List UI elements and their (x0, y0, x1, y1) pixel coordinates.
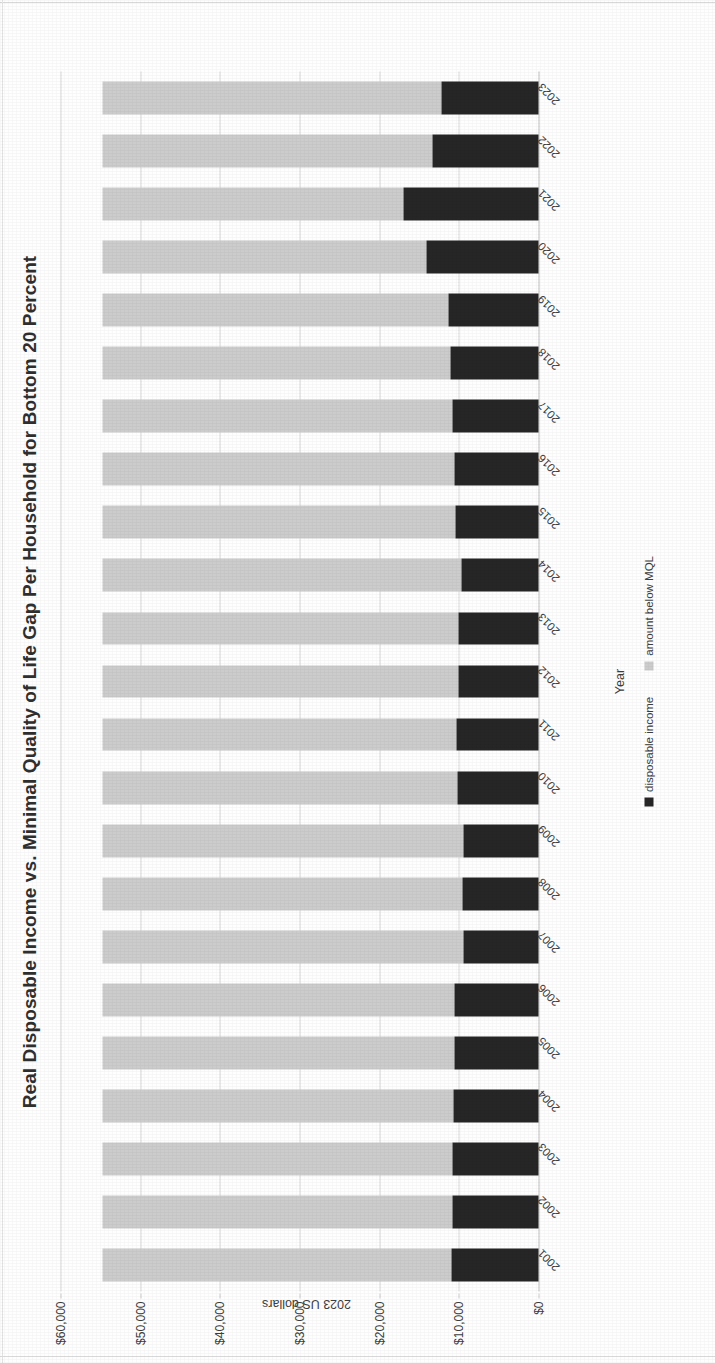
bar-segment[interactable] (452, 1142, 538, 1175)
bar-group[interactable] (102, 612, 538, 645)
bar-group[interactable] (102, 1248, 538, 1281)
bar-segment[interactable] (102, 1142, 452, 1175)
bar-segment[interactable] (403, 187, 538, 220)
bar-series-container (60, 71, 538, 1291)
bar-segment[interactable] (102, 558, 461, 591)
bar-segment[interactable] (102, 187, 402, 220)
scanned-page-background: Real Disposable Income vs. Minimal Quali… (0, 0, 715, 1363)
bar-segment[interactable] (102, 452, 453, 485)
bar-segment[interactable] (102, 1089, 453, 1122)
bar-group[interactable] (102, 718, 538, 751)
bar-segment[interactable] (463, 930, 538, 963)
bar-segment[interactable] (458, 665, 538, 698)
bar-segment[interactable] (102, 824, 463, 857)
bar-segment[interactable] (450, 346, 538, 379)
bar-segment[interactable] (453, 1089, 538, 1122)
bar-group[interactable] (102, 346, 538, 379)
value-axis-tick (60, 1293, 61, 1298)
bar-segment[interactable] (441, 81, 538, 114)
bar-group[interactable] (102, 452, 538, 485)
bar-segment[interactable] (454, 452, 538, 485)
bar-segment[interactable] (102, 1195, 452, 1228)
bar-segment[interactable] (102, 505, 455, 538)
value-axis-tick (538, 1293, 539, 1298)
value-axis-label: $50,000 (133, 1301, 147, 1344)
bar-group[interactable] (102, 665, 538, 698)
plot-area (60, 71, 538, 1291)
bar-group[interactable] (102, 771, 538, 804)
bar-group[interactable] (102, 187, 538, 220)
bar-segment[interactable] (462, 877, 538, 910)
category-axis-title: Year (612, 71, 626, 1291)
bar-segment[interactable] (102, 399, 452, 432)
legend-label: disposable income (642, 696, 654, 791)
bar-group[interactable] (102, 824, 538, 857)
bar-segment[interactable] (452, 399, 538, 432)
bar-group[interactable] (102, 293, 538, 326)
bar-segment[interactable] (448, 293, 538, 326)
bar-group[interactable] (102, 1195, 538, 1228)
bar-group[interactable] (102, 930, 538, 963)
value-axis-label: $10,000 (451, 1301, 465, 1344)
bar-segment[interactable] (451, 1248, 538, 1281)
bar-segment[interactable] (102, 346, 449, 379)
bar-segment[interactable] (102, 771, 457, 804)
bar-segment[interactable] (102, 81, 441, 114)
legend-item[interactable]: amount below MQL (642, 556, 654, 671)
legend-label: amount below MQL (642, 556, 654, 656)
legend-swatch (644, 661, 653, 670)
bar-group[interactable] (102, 505, 538, 538)
bar-group[interactable] (102, 983, 538, 1016)
bar-group[interactable] (102, 134, 538, 167)
bar-segment[interactable] (456, 718, 538, 751)
bar-segment[interactable] (102, 612, 457, 645)
bar-segment[interactable] (102, 240, 426, 273)
bar-group[interactable] (102, 1142, 538, 1175)
bar-group[interactable] (102, 81, 538, 114)
chart-stage: Real Disposable Income vs. Minimal Quali… (0, 0, 715, 1363)
bar-segment[interactable] (102, 930, 463, 963)
bar-segment[interactable] (461, 558, 538, 591)
value-axis-label: $0 (531, 1301, 545, 1314)
bar-segment[interactable] (452, 1195, 538, 1228)
bar-segment[interactable] (102, 293, 448, 326)
bar-segment[interactable] (454, 983, 538, 1016)
bar-group[interactable] (102, 399, 538, 432)
bar-segment[interactable] (454, 1036, 538, 1069)
bar-segment[interactable] (432, 134, 538, 167)
bar-segment[interactable] (426, 240, 538, 273)
bar-segment[interactable] (102, 134, 432, 167)
bar-group[interactable] (102, 558, 538, 591)
bar-segment[interactable] (102, 718, 456, 751)
bar-segment[interactable] (102, 1248, 451, 1281)
chart-legend: disposable incomeamount below MQL (642, 71, 654, 1291)
value-axis-label: $60,000 (53, 1301, 67, 1344)
legend-item[interactable]: disposable income (642, 696, 654, 806)
bar-segment[interactable] (102, 665, 458, 698)
legend-swatch (644, 798, 653, 807)
value-axis-tick (140, 1293, 141, 1298)
bar-group[interactable] (102, 877, 538, 910)
chart-title: Real Disposable Income vs. Minimal Quali… (18, 0, 40, 1363)
value-axis-title: 2023 US dollars (206, 1296, 406, 1310)
bar-segment[interactable] (102, 877, 462, 910)
bar-segment[interactable] (455, 505, 538, 538)
bar-segment[interactable] (463, 824, 538, 857)
category-axis: 2001200220032004200520062007200820092010… (540, 71, 610, 1291)
bar-segment[interactable] (102, 1036, 453, 1069)
bar-segment[interactable] (457, 771, 538, 804)
value-axis-tick (458, 1293, 459, 1298)
bar-group[interactable] (102, 1089, 538, 1122)
bar-segment[interactable] (102, 983, 453, 1016)
bar-segment[interactable] (458, 612, 538, 645)
bar-group[interactable] (102, 1036, 538, 1069)
bar-group[interactable] (102, 240, 538, 273)
